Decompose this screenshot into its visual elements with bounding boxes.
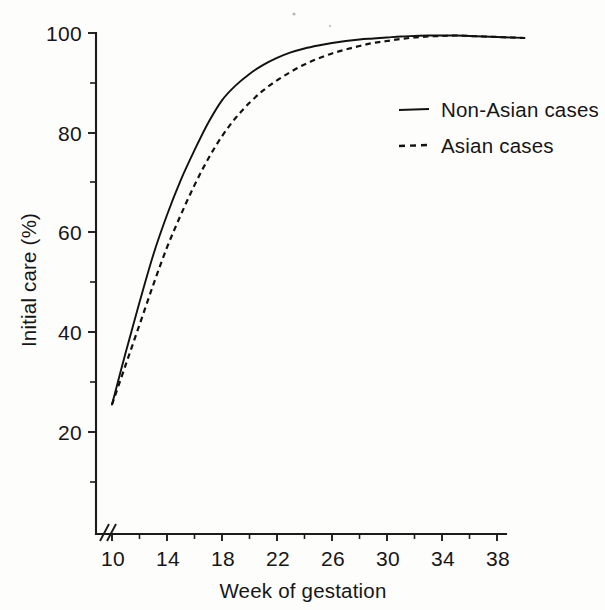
- line-chart: 100 80 60 40 20 10 14 18 22 26 30 34 38 …: [0, 0, 605, 610]
- legend: Non-Asian cases Asian cases: [399, 98, 599, 157]
- x-tick-label-10: 10: [101, 547, 125, 570]
- y-tick-labels: 100 80 60 40 20: [46, 22, 82, 444]
- figure-canvas: 100 80 60 40 20 10 14 18 22 26 30 34 38 …: [0, 0, 605, 610]
- x-tick-label-18: 18: [211, 547, 235, 570]
- legend-label-non-asian-cases: Non-Asian cases: [441, 98, 599, 121]
- y-tick-label-100: 100: [46, 22, 82, 45]
- x-tick-labels: 10 14 18 22 26 30 34 38: [101, 547, 510, 570]
- legend-swatch-solid-icon: [399, 109, 429, 110]
- x-tick-label-14: 14: [156, 547, 180, 570]
- y-tick-label-40: 40: [58, 321, 82, 344]
- legend-swatch-dashed-icon: [399, 145, 429, 146]
- x-tick-label-34: 34: [431, 547, 455, 570]
- x-tick-label-38: 38: [486, 547, 510, 570]
- y-tick-label-60: 60: [58, 221, 82, 244]
- x-tick-label-22: 22: [266, 547, 290, 570]
- x-tick-label-30: 30: [376, 547, 400, 570]
- y-tick-group: [88, 33, 96, 482]
- legend-label-asian-cases: Asian cases: [441, 134, 554, 157]
- y-tick-label-20: 20: [58, 421, 82, 444]
- scan-speck: [329, 25, 331, 27]
- series-group: [112, 35, 525, 404]
- x-tick-label-26: 26: [321, 547, 345, 570]
- y-axis-title: Initial care (%): [17, 213, 40, 347]
- axis-break-icon: [100, 524, 116, 541]
- x-axis-title: Week of gestation: [219, 579, 386, 602]
- y-tick-label-80: 80: [58, 122, 82, 145]
- series-line-asian-cases: [112, 35, 525, 404]
- series-line-non-asian-cases: [112, 35, 525, 404]
- scan-speck: [292, 12, 295, 15]
